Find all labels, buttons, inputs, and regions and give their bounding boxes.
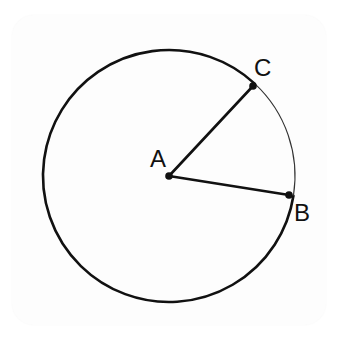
label-c: C [254, 54, 271, 81]
radius-ab [169, 176, 289, 195]
circle-diagram: A B C [0, 0, 339, 342]
point-c [249, 82, 257, 90]
label-b: B [294, 199, 310, 226]
radius-ac [169, 86, 253, 176]
minor-arc [255, 84, 295, 196]
point-a [165, 172, 173, 180]
label-a: A [150, 145, 166, 172]
point-b [285, 191, 293, 199]
